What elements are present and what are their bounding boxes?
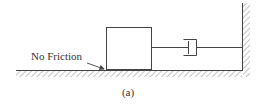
mass-block: [107, 28, 152, 70]
wall-support: [243, 3, 251, 77]
figure-caption: (a): [122, 86, 135, 99]
ground-support: [16, 71, 242, 78]
friction-label: No Friction: [31, 50, 83, 62]
ground-hatching: [16, 71, 242, 77]
mass-damper-diagram: No Friction (a): [0, 0, 263, 108]
wall-hatching: [243, 3, 250, 77]
friction-arrow: [87, 63, 104, 69]
